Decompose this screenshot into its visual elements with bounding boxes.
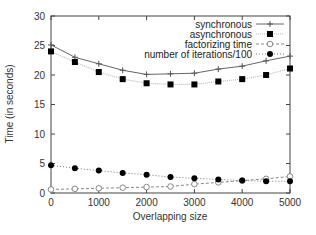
- x-axis-label: Overlapping size: [133, 211, 208, 222]
- open-circle-marker: [72, 186, 78, 192]
- filled-circle-marker: [191, 175, 197, 181]
- y-tick-label: 5: [39, 158, 45, 169]
- x-tick-label: 5000: [279, 197, 302, 208]
- filled-circle-marker: [144, 172, 150, 178]
- y-tick-label: 10: [34, 129, 46, 140]
- x-tick-label: 0: [48, 197, 54, 208]
- x-tick-label: 1000: [88, 197, 111, 208]
- square-marker: [263, 72, 269, 78]
- plus-marker: [263, 58, 269, 64]
- legend-item: number of iterations/100: [144, 49, 284, 60]
- filled-circle-marker: [287, 178, 293, 184]
- square-marker: [267, 31, 273, 37]
- open-circle-marker: [96, 185, 102, 191]
- open-circle-marker: [192, 181, 198, 187]
- open-circle-marker: [144, 184, 150, 190]
- open-circle-marker: [120, 185, 126, 191]
- filled-circle-marker: [72, 165, 78, 171]
- plus-marker: [287, 53, 293, 59]
- square-marker: [120, 76, 126, 82]
- plus-marker: [191, 70, 197, 76]
- plus-marker: [267, 21, 273, 27]
- filled-circle-marker: [48, 162, 54, 168]
- filled-circle-marker: [120, 170, 126, 176]
- x-tick-label: 4000: [231, 197, 254, 208]
- filled-circle-marker: [215, 176, 221, 182]
- x-tick-label: 2000: [135, 197, 158, 208]
- plus-marker: [144, 71, 150, 77]
- square-marker: [144, 80, 150, 86]
- square-marker: [168, 81, 174, 87]
- plus-marker: [48, 42, 54, 48]
- square-marker: [72, 59, 78, 65]
- square-marker: [215, 78, 221, 84]
- x-tick-label: 3000: [183, 197, 206, 208]
- square-marker: [287, 66, 293, 72]
- open-circle-marker: [168, 184, 174, 190]
- plus-marker: [239, 63, 245, 69]
- filled-circle-marker: [239, 178, 245, 184]
- filled-circle-marker: [267, 51, 273, 57]
- filled-circle-marker: [96, 168, 102, 174]
- series-number-of-iterations-100: [48, 162, 293, 184]
- y-tick-label: 15: [34, 99, 46, 110]
- legend-label: number of iterations/100: [144, 49, 252, 60]
- plus-marker: [120, 67, 126, 73]
- open-circle-marker: [48, 187, 54, 193]
- square-marker: [239, 76, 245, 82]
- y-tick-label: 20: [34, 70, 46, 81]
- legend: synchronousasynchronousfactorizing timen…: [144, 19, 284, 60]
- square-marker: [96, 69, 102, 75]
- square-marker: [48, 48, 54, 54]
- open-circle-marker: [267, 41, 273, 47]
- filled-circle-marker: [263, 178, 269, 184]
- y-axis-label: Time (in seconds): [4, 64, 15, 143]
- plus-marker: [215, 66, 221, 72]
- series-layer: [48, 42, 293, 192]
- plot-frame: [51, 16, 290, 193]
- series-synchronous: [48, 42, 293, 78]
- y-tick-label: 25: [34, 40, 46, 51]
- plus-marker: [168, 71, 174, 77]
- line-chart: 051015202530 010002000300040005000 Time …: [0, 0, 316, 235]
- square-marker: [191, 81, 197, 87]
- filled-circle-marker: [168, 174, 174, 180]
- plus-marker: [96, 61, 102, 67]
- y-tick-label: 30: [34, 11, 46, 22]
- y-tick-label: 0: [39, 188, 45, 199]
